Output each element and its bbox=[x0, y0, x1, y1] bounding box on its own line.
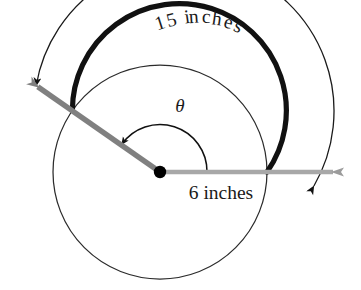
radius-label: 6 inches bbox=[189, 182, 253, 203]
geometry-diagram: θ 6 inches 15inches bbox=[0, 0, 361, 290]
bold-arc-15-inches bbox=[72, 4, 286, 172]
theta-arc bbox=[122, 125, 208, 172]
arc-length-label-char: h bbox=[211, 7, 224, 29]
arc-length-label: 15inches bbox=[152, 6, 246, 37]
measure-arc-15-inches bbox=[36, 0, 334, 186]
center-vertex-dot bbox=[154, 166, 166, 178]
arc-length-label-char: c bbox=[202, 6, 212, 27]
arc-length-label-char: n bbox=[188, 6, 199, 28]
terminal-side-ray bbox=[38, 87, 160, 172]
angle-label-theta: θ bbox=[175, 95, 184, 116]
figure-root: θ 6 inches 15inches bbox=[0, 0, 361, 290]
